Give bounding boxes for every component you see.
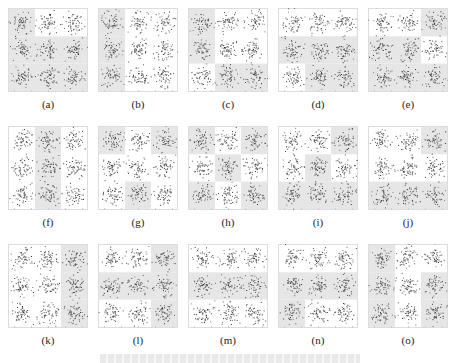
panel-label: (k): [8, 334, 88, 346]
panel-label: (d): [278, 98, 358, 110]
panel-label: (e): [368, 98, 448, 110]
panel-label: (h): [188, 216, 268, 228]
scatter-panel: [98, 126, 178, 210]
panel-label: (l): [98, 334, 178, 346]
panel-label: (n): [278, 334, 358, 346]
panel-label: (a): [8, 98, 88, 110]
panel-label: (g): [98, 216, 178, 228]
figure-caption: [100, 354, 360, 363]
panel-label: (f): [8, 216, 88, 228]
scatter-panel: [8, 8, 88, 92]
scatter-panel: [368, 244, 448, 328]
scatter-panel: [368, 8, 448, 92]
panel-label: (i): [278, 216, 358, 228]
scatter-panel: [8, 126, 88, 210]
panel-label: (b): [98, 98, 178, 110]
scatter-panel: [278, 244, 358, 328]
scatter-panel: [188, 244, 268, 328]
scatter-panel: [188, 126, 268, 210]
scatter-panel: [278, 126, 358, 210]
panel-label: (j): [368, 216, 448, 228]
scatter-panel: [368, 126, 448, 210]
panel-label: (c): [188, 98, 268, 110]
scatter-panel: [278, 8, 358, 92]
panel-label: (m): [188, 334, 268, 346]
scatter-panel: [8, 244, 88, 328]
scatter-panel: [98, 244, 178, 328]
panel-label: (o): [368, 334, 448, 346]
scatter-panel: [98, 8, 178, 92]
scatter-panel: [188, 8, 268, 92]
